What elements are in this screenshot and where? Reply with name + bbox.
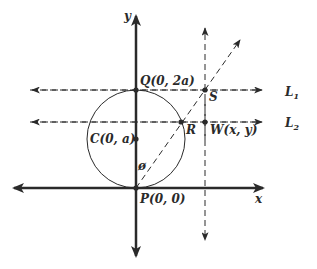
point-s [202, 87, 207, 92]
label-q: Q(0, 2a) [140, 74, 195, 88]
label-c: C(0, a) [90, 132, 135, 146]
point-q [133, 87, 138, 92]
diagram-canvas: y x Q(0, 2a) C(0, a) P(0, 0) R S W(x, y)… [0, 0, 317, 269]
y-axis-label: y [123, 9, 132, 23]
label-l2: L2 [284, 116, 299, 132]
point-p [133, 185, 138, 190]
label-s: S [209, 90, 218, 104]
label-r: R [185, 123, 196, 137]
label-w: W(x, y) [210, 123, 257, 137]
x-axis-label: x [254, 192, 263, 206]
point-r [178, 119, 183, 124]
label-l1: L1 [284, 85, 299, 101]
label-p: P(0, 0) [139, 192, 185, 206]
angle-label: ø [137, 159, 147, 173]
diagonal-dashed-line [136, 40, 240, 188]
point-w [202, 119, 207, 124]
